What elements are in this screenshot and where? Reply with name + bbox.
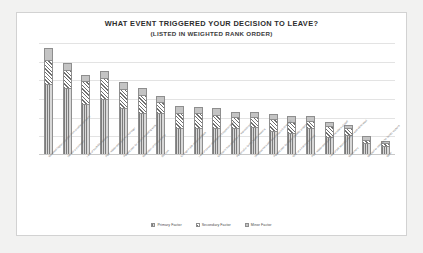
bar-segment-minor xyxy=(82,76,89,83)
x-axis-category-labels: Received higher pay offer from another c… xyxy=(39,156,395,224)
bar-column[interactable] xyxy=(357,43,376,155)
bar-segment-secondary xyxy=(139,96,146,114)
bar-segment-minor xyxy=(213,109,220,116)
legend-swatch-icon xyxy=(151,223,155,227)
bar-segment-secondary xyxy=(251,118,258,128)
legend-label: Secondary Factor xyxy=(202,223,231,227)
title-block: WHAT EVENT TRIGGERED YOUR DECISION TO LE… xyxy=(17,19,406,38)
legend-swatch-icon xyxy=(245,223,249,227)
bar-segment-primary xyxy=(64,89,71,154)
bar-column[interactable] xyxy=(170,43,189,155)
bar-segment-minor xyxy=(101,72,108,79)
bar-segment-secondary xyxy=(45,61,52,85)
bar-segment-primary xyxy=(120,109,127,154)
chart-legend: Primary FactorSecondary FactorMinor Fact… xyxy=(17,223,406,227)
chart-title: WHAT EVENT TRIGGERED YOUR DECISION TO LE… xyxy=(17,19,406,29)
bar-segment-secondary xyxy=(307,122,314,130)
bar-segment-secondary xyxy=(176,114,183,130)
bar-segment-secondary xyxy=(120,90,127,109)
page-background: WHAT EVENT TRIGGERED YOUR DECISION TO LE… xyxy=(0,0,423,253)
legend-item[interactable]: Primary Factor xyxy=(151,223,181,227)
bar-segment-primary xyxy=(101,100,108,154)
stacked-bar[interactable] xyxy=(212,108,221,155)
stacked-bar[interactable] xyxy=(194,107,203,155)
stacked-bar[interactable] xyxy=(44,48,53,155)
chart-panel: WHAT EVENT TRIGGERED YOUR DECISION TO LE… xyxy=(16,12,407,236)
bar-segment-minor xyxy=(45,49,52,61)
stacked-bar[interactable] xyxy=(138,88,147,155)
stacked-bar[interactable] xyxy=(175,106,184,155)
bar-segment-primary xyxy=(176,129,183,154)
legend-item[interactable]: Secondary Factor xyxy=(196,223,231,227)
bar-segment-secondary xyxy=(195,114,202,130)
legend-swatch-icon xyxy=(196,223,200,227)
legend-label: Minor Factor xyxy=(251,223,272,227)
chart-subtitle: (LISTED IN WEIGHTED RANK ORDER) xyxy=(17,29,406,38)
bar-column[interactable] xyxy=(76,43,95,155)
bar-segment-secondary xyxy=(82,82,89,104)
bar-segment-primary xyxy=(82,105,89,154)
bar-segment-secondary xyxy=(270,120,277,131)
bar-segment-secondary xyxy=(213,116,220,129)
bar-segment-secondary xyxy=(64,71,71,89)
bar-segment-minor xyxy=(64,64,71,71)
legend-label: Primary Factor xyxy=(157,223,181,227)
bar-segment-minor xyxy=(176,107,183,114)
bar-segment-minor xyxy=(120,83,127,90)
bar-segment-minor xyxy=(139,89,146,96)
bar-column[interactable] xyxy=(39,43,58,155)
stacked-bar[interactable] xyxy=(156,96,165,155)
legend-item[interactable]: Minor Factor xyxy=(245,223,272,227)
bar-segment-secondary xyxy=(101,79,108,100)
bar-segment-secondary xyxy=(157,103,164,114)
bar-segment-primary xyxy=(45,85,52,154)
